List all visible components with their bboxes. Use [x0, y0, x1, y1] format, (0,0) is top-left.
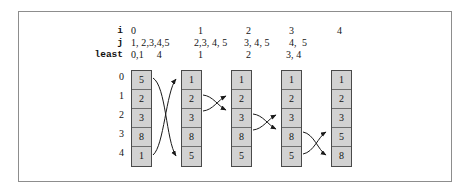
array-cell: 3: [182, 109, 201, 128]
header-label-j: j: [53, 37, 123, 48]
header-i-value-0: 0: [131, 25, 136, 36]
array-cell: 3: [132, 109, 151, 128]
row-index-1: 1: [104, 90, 124, 101]
array-cell: 8: [332, 147, 351, 166]
header-least-value-0: 0,1 4: [131, 49, 162, 60]
header-j-value-1: 2,3, 4, 5: [194, 37, 227, 48]
array-column-2: 1 2 3 8 5: [231, 70, 252, 167]
array-cell: 1: [282, 71, 301, 90]
array-cell: 5: [132, 71, 151, 90]
array-cell: 2: [332, 90, 351, 109]
array-cell: 8: [282, 128, 301, 147]
array-cell: 1: [332, 71, 351, 90]
header-j-value-2: 3, 4, 5: [244, 37, 270, 48]
swap-arrow-2-3: [253, 114, 276, 130]
array-cell: 2: [182, 90, 201, 109]
array-cell: 8: [232, 128, 251, 147]
header-least-value-2: 2: [246, 49, 251, 60]
row-index-0: 0: [104, 71, 124, 82]
array-cell: 2: [282, 90, 301, 109]
header-least-value-3: 3, 4: [286, 49, 301, 60]
row-index-2: 2: [104, 109, 124, 120]
swap-arrow-1-2: [203, 95, 226, 111]
array-cell: 3: [282, 109, 301, 128]
header-least-value-1: 1: [198, 49, 203, 60]
selection-sort-trace-diagram: i j least 0 1 2 3 4 1, 2,3,4,5 2,3, 4, 5…: [0, 0, 472, 194]
array-column-4: 1 2 3 5 8: [331, 70, 352, 167]
array-cell: 1: [132, 147, 151, 166]
swap-arrow-3-4: [303, 132, 326, 155]
array-cell: 5: [282, 147, 301, 166]
header-j-value-3: 4, 5: [289, 37, 307, 48]
header-i-value-4: 4: [337, 25, 342, 36]
array-cell: 3: [332, 109, 351, 128]
array-cell: 5: [332, 128, 351, 147]
header-i-value-3: 3: [289, 25, 294, 36]
header-label-i: i: [53, 25, 123, 36]
array-cell: 8: [132, 128, 151, 147]
array-cell: 1: [182, 71, 201, 90]
swap-arrow-0-4: [153, 78, 176, 156]
header-j-value-0: 1, 2,3,4,5: [131, 37, 170, 48]
array-column-3: 1 2 3 8 5: [281, 70, 302, 167]
row-index-3: 3: [104, 128, 124, 139]
array-cell: 1: [232, 71, 251, 90]
array-cell: 5: [232, 147, 251, 166]
header-label-least: least: [53, 49, 123, 60]
array-column-1: 1 2 3 8 5: [181, 70, 202, 167]
header-i-value-2: 2: [246, 25, 251, 36]
array-cell: 8: [182, 128, 201, 147]
array-column-0: 5 2 3 8 1: [131, 70, 152, 167]
row-index-4: 4: [104, 147, 124, 158]
array-cell: 2: [132, 90, 151, 109]
array-cell: 2: [232, 90, 251, 109]
array-cell: 3: [232, 109, 251, 128]
header-i-value-1: 1: [198, 25, 203, 36]
array-cell: 5: [182, 147, 201, 166]
